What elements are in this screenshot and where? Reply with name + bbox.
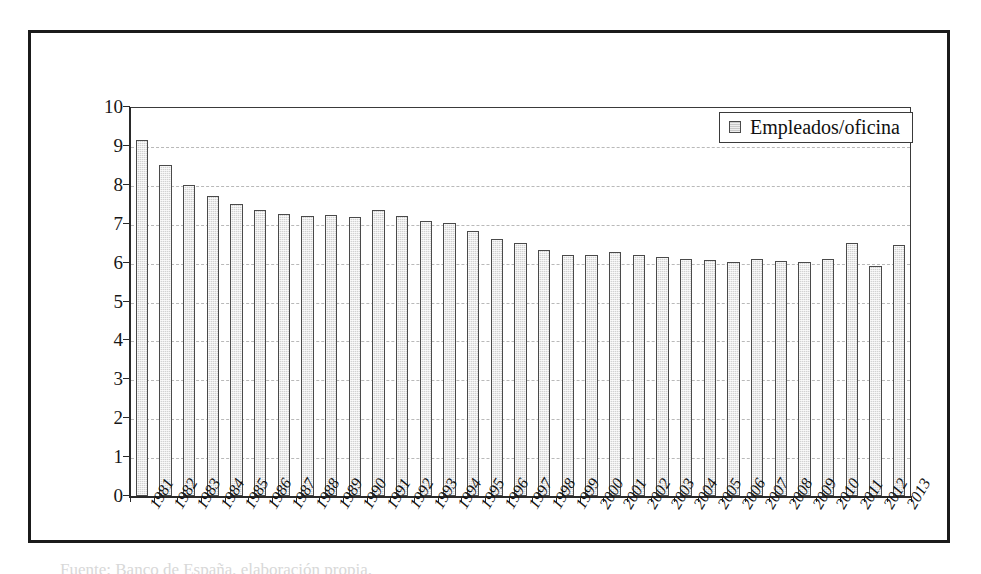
- gridline: [131, 147, 910, 148]
- y-axis-tick-label: 3: [89, 369, 123, 388]
- bar: [704, 260, 717, 496]
- bar: [491, 239, 504, 496]
- bar: [136, 140, 149, 496]
- bar: [822, 259, 835, 496]
- y-axis-tick-label: 5: [89, 292, 123, 311]
- y-axis-tick-mark: [123, 301, 130, 302]
- y-axis-tick-label: 9: [89, 136, 123, 155]
- bar: [183, 185, 196, 496]
- bar: [562, 255, 575, 496]
- bar: [680, 259, 693, 496]
- y-axis-tick-label: 0: [89, 486, 123, 505]
- legend-label: Empleados/oficina: [750, 117, 900, 137]
- y-axis-tick-label: 10: [89, 97, 123, 116]
- y-axis-tick-mark: [123, 223, 130, 224]
- y-axis-tick-mark: [123, 262, 130, 263]
- bar: [254, 210, 267, 496]
- bar: [396, 216, 409, 496]
- y-axis-tick-label: 4: [89, 330, 123, 349]
- y-axis-line: [129, 107, 131, 497]
- x-axis-tick-mark: [130, 496, 131, 502]
- bar: [751, 259, 764, 496]
- square-swatch-icon: [729, 121, 741, 133]
- y-axis-tick-mark: [123, 417, 130, 418]
- y-axis-tick-label: 7: [89, 214, 123, 233]
- figure-caption-fragment: Fuente: Banco de España, elaboración pro…: [60, 560, 372, 574]
- bar: [372, 210, 385, 496]
- y-axis-tick-mark: [123, 495, 130, 496]
- bar: [467, 231, 480, 496]
- y-axis-tick-mark: [123, 184, 130, 185]
- bar: [207, 196, 220, 496]
- bar: [230, 204, 243, 496]
- bar: [349, 217, 362, 496]
- bar: [893, 245, 906, 496]
- bar: [159, 165, 172, 496]
- bar: [278, 214, 291, 496]
- y-axis-tick-mark: [123, 145, 130, 146]
- y-axis-tick-label: 2: [89, 408, 123, 427]
- bar: [420, 221, 433, 496]
- bar: [727, 262, 740, 496]
- bar: [514, 243, 527, 496]
- bar: [538, 250, 551, 496]
- y-axis-tick-label: 8: [89, 175, 123, 194]
- bar: [443, 223, 456, 496]
- y-axis-tick-mark: [123, 106, 130, 107]
- chart-legend: Empleados/oficina: [719, 112, 913, 143]
- bar: [325, 215, 338, 496]
- bar: [869, 266, 882, 496]
- bar: [633, 255, 646, 496]
- bar: [656, 257, 669, 496]
- bar: [609, 252, 622, 496]
- y-axis-tick-mark: [123, 378, 130, 379]
- y-axis-tick-mark: [123, 339, 130, 340]
- y-axis-tick-label: 6: [89, 253, 123, 272]
- y-axis-tick-label: 1: [89, 447, 123, 466]
- figure-frame: 109876543210 198119821983198419851986198…: [28, 30, 950, 543]
- bar: [301, 216, 314, 496]
- bar: [798, 262, 811, 496]
- gridline: [131, 186, 910, 187]
- bar: [775, 261, 788, 496]
- gridline: [131, 225, 910, 226]
- y-axis-tick-mark: [123, 456, 130, 457]
- bar: [585, 255, 598, 496]
- bar: [846, 243, 859, 496]
